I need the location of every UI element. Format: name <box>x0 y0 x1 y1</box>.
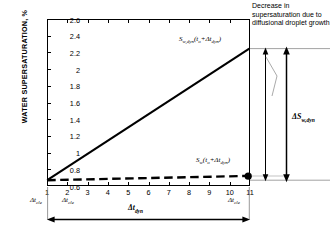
upper-curve-symbol-sub: w,dyn <box>183 39 194 44</box>
decrease-arrow <box>263 47 269 181</box>
dt-cle-sub: cle <box>68 200 74 205</box>
dt-dyn-label: Δtdyn <box>128 203 143 214</box>
series-line-static <box>47 176 249 180</box>
delta-s-label: ΔSw,dyn <box>292 112 315 123</box>
dt-cle-label-2: Δtcle <box>62 196 74 205</box>
note-leader-line <box>266 57 277 96</box>
lower-curve-t2-sub: dyn <box>220 160 227 165</box>
lower-curve-paren-close: ) <box>228 156 230 164</box>
delta-s-sub: w,dyn <box>301 117 314 123</box>
dt-dyn-sub: dyn <box>135 208 143 214</box>
chart-vector-layer <box>0 0 332 237</box>
lower-curve-label: Sw(to+Δtdyn) <box>196 156 230 165</box>
data-point-marker <box>245 173 252 180</box>
dt-dyn-arrow <box>47 216 250 222</box>
upper-curve-plus: +Δ <box>201 35 210 43</box>
chart-figure: WATER SUPERSATURATION, % 2.6 2.4 2.2 2 1… <box>0 0 332 237</box>
dt-dyn-prefix: Δt <box>128 203 135 212</box>
delta-s-arrow <box>283 47 290 183</box>
dt-cle-sub: cle <box>234 200 240 205</box>
decrease-note-text: Decrease in supersaturation due to diffu… <box>252 2 332 28</box>
dt-cle-label-3: Δtcle <box>228 196 240 205</box>
dt-cle-label-1: Δtcle <box>30 196 42 205</box>
dt-cle-sub: cle <box>36 200 42 205</box>
upper-curve-t2-sub: dyn <box>212 39 219 44</box>
upper-curve-paren-close: ) <box>219 35 221 43</box>
upper-curve-label: Sw,dyn(to+Δtdyn) <box>179 35 221 44</box>
